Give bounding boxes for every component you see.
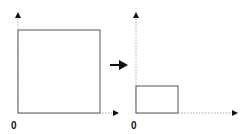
transform-arrow-icon [110, 60, 128, 70]
right-panel: 0 [131, 13, 237, 131]
left-panel: 0 [11, 13, 118, 131]
left-origin-label: 0 [11, 120, 17, 131]
right-rectangle [136, 86, 178, 113]
right-origin-label: 0 [131, 120, 137, 131]
left-square [18, 30, 100, 113]
diagram-canvas: 0 0 [0, 0, 247, 134]
